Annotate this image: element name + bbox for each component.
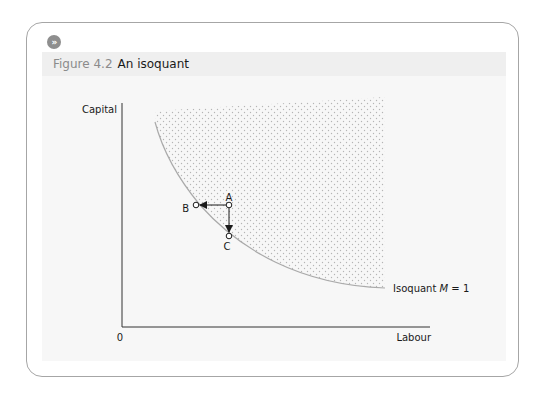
x-axis-label: Labour bbox=[396, 332, 432, 343]
isoquant-label-prefix: Isoquant bbox=[393, 283, 440, 294]
point-a bbox=[226, 202, 232, 208]
isoquant-label: Isoquant M = 1 bbox=[393, 283, 469, 294]
isoquant-label-var: M bbox=[440, 283, 449, 294]
origin-label: 0 bbox=[117, 332, 123, 343]
point-c bbox=[226, 233, 232, 239]
isoquant-chart: Capital Labour 0 A B C Isoquant M = 1 bbox=[0, 0, 550, 403]
point-b bbox=[193, 202, 199, 208]
point-a-label: A bbox=[226, 192, 233, 203]
point-c-label: C bbox=[224, 241, 231, 252]
point-b-label: B bbox=[182, 203, 189, 214]
isoquant-label-suffix: = 1 bbox=[448, 283, 469, 294]
y-axis-label: Capital bbox=[82, 104, 117, 115]
